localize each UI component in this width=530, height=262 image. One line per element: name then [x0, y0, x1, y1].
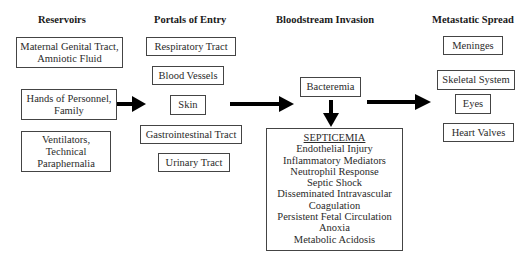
arrow-bacteremia-to-septicemia [323, 100, 339, 127]
arrow-reservoir-to-portal [117, 96, 146, 112]
flow-arrows [0, 0, 530, 262]
arrow-portal-to-bacteremia [230, 96, 294, 112]
sepsis-pathway-diagram: Reservoirs Portals of Entry Bloodstream … [0, 0, 530, 262]
arrow-bacteremia-to-metastatic [367, 94, 431, 110]
